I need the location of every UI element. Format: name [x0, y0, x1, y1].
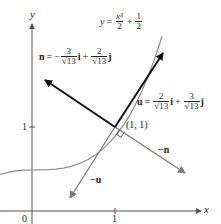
- y-axis: [29, 24, 35, 224]
- n-equation: n = − 3 √13 i + 2 √13 j: [39, 47, 112, 66]
- n-vector: [45, 80, 115, 127]
- vector-diagram: y x 0 1 1 y = x³ 2 + 1 2 n = − 3 √13 i +…: [0, 0, 221, 224]
- neg-u-vector: [70, 127, 115, 198]
- curve-term2: 1 2: [135, 12, 142, 31]
- x-tick-label-0: 0: [22, 214, 27, 224]
- diagram-canvas: [0, 0, 221, 224]
- curve-equals: =: [106, 17, 112, 27]
- point-label: (1, 1): [126, 120, 148, 130]
- y-axis-label: y: [30, 9, 35, 20]
- curve-plus: +: [127, 17, 133, 27]
- neg-n-vector: [115, 127, 185, 173]
- x-tick-label-1: 1: [112, 214, 117, 224]
- x-axis: [0, 208, 201, 214]
- curve-term1: x³ 2: [115, 12, 124, 31]
- u-equation: u = 2 √13 i + 3 √13 j: [137, 92, 204, 111]
- curve-lhs: y: [100, 17, 104, 27]
- neg-u-label: −u: [90, 175, 101, 185]
- y-tick-label-1: 1: [22, 122, 27, 132]
- u-vector: [115, 53, 163, 127]
- neg-n-label: −n: [158, 145, 169, 155]
- x-axis-label: x: [204, 204, 209, 215]
- curve-equation: y = x³ 2 + 1 2: [100, 12, 143, 31]
